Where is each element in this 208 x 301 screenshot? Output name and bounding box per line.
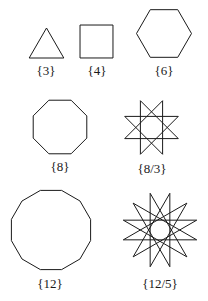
octagram-shape	[125, 101, 179, 155]
octagon-shape	[33, 100, 87, 154]
hexagon-label: {6}	[155, 63, 174, 78]
dodecagon-label: {12}	[37, 276, 62, 291]
triangle-shape	[29, 28, 64, 58]
hexagon-group: {6}	[137, 10, 192, 78]
dodecagram-label: {12/5}	[142, 276, 178, 291]
dodecagon-shape	[11, 190, 90, 269]
hexagon-shape	[137, 10, 192, 58]
square-group: {4}	[80, 25, 113, 78]
octagon-group: {8}	[33, 100, 87, 174]
dodecagram-shape	[123, 193, 196, 266]
dodecagram-group: {12/5}	[123, 193, 196, 291]
triangle-group: {3}	[29, 28, 64, 78]
octagram-label: {8/3}	[137, 161, 166, 176]
polygon-figure: {3} {4} {6} {8} {8/3} {12} {12/5}	[0, 0, 208, 301]
triangle-label: {3}	[37, 63, 56, 78]
square-label: {4}	[88, 63, 107, 78]
square-shape	[80, 25, 113, 58]
octagon-label: {8}	[51, 159, 70, 174]
dodecagon-group: {12}	[11, 190, 90, 291]
octagram-group: {8/3}	[125, 101, 179, 176]
